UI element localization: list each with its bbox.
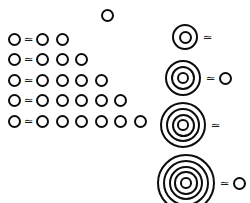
equivalence-row: ≃ bbox=[8, 50, 147, 71]
row-right-circles bbox=[36, 94, 127, 107]
open-circle-icon bbox=[56, 53, 69, 66]
equivalence-row: ≃ bbox=[8, 111, 147, 132]
approx-equal-symbol: ≃ bbox=[24, 54, 34, 65]
equivalence-row: ≃ bbox=[8, 29, 147, 50]
open-circle-icon bbox=[8, 33, 21, 46]
approx-equal-symbol: ≃ bbox=[206, 73, 216, 84]
open-circle-icon bbox=[8, 115, 21, 128]
open-circle-icon bbox=[56, 94, 69, 107]
open-circle-icon bbox=[219, 72, 232, 85]
concentric-equivalence-row: ≃ bbox=[160, 102, 224, 148]
approx-equal-symbol: ≃ bbox=[220, 178, 230, 189]
equivalence-row: ≃ bbox=[8, 91, 147, 112]
open-circle-icon bbox=[36, 33, 49, 46]
isolated-circle-group bbox=[101, 8, 114, 26]
open-circle-icon bbox=[56, 33, 69, 46]
circle-equivalence-figure: ≃≃≃≃≃ ≃≃≃≃ bbox=[0, 0, 250, 203]
open-circle-icon bbox=[95, 74, 108, 87]
open-circle-icon bbox=[134, 115, 147, 128]
approx-equal-symbol: ≃ bbox=[24, 75, 34, 86]
open-circle-icon bbox=[8, 53, 21, 66]
open-circle-icon bbox=[75, 74, 88, 87]
open-circle-icon bbox=[114, 94, 127, 107]
open-circle-icon bbox=[36, 94, 49, 107]
open-circle-icon bbox=[114, 115, 127, 128]
concentric-circles-icon bbox=[160, 102, 206, 148]
ring bbox=[177, 119, 189, 131]
open-circle-icon bbox=[36, 74, 49, 87]
concentric-circles-icon bbox=[157, 154, 215, 203]
equivalence-row: ≃ bbox=[8, 70, 147, 91]
ring bbox=[179, 31, 192, 44]
approx-equal-symbol: ≃ bbox=[24, 95, 34, 106]
ring bbox=[177, 72, 189, 84]
open-circle-icon bbox=[56, 74, 69, 87]
row-right-circles bbox=[36, 33, 69, 46]
open-circle-icon bbox=[8, 74, 21, 87]
open-circle-icon bbox=[75, 115, 88, 128]
approx-equal-symbol: ≃ bbox=[24, 34, 34, 45]
row-right-circles bbox=[36, 115, 147, 128]
concentric-equivalence-row: ≃ bbox=[172, 24, 216, 50]
open-circle-icon bbox=[101, 9, 114, 22]
row-right-circles bbox=[36, 74, 108, 87]
approx-equal-symbol: ≃ bbox=[24, 116, 34, 127]
open-circle-icon bbox=[36, 53, 49, 66]
open-circle-icon bbox=[95, 115, 108, 128]
approx-equal-symbol: ≃ bbox=[211, 120, 221, 131]
open-circle-icon bbox=[95, 94, 108, 107]
open-circle-icon bbox=[75, 53, 88, 66]
concentric-circles-icon bbox=[165, 60, 201, 96]
approx-equal-symbol: ≃ bbox=[203, 32, 213, 43]
open-circle-icon bbox=[36, 115, 49, 128]
concentric-equivalence-row: ≃ bbox=[165, 60, 232, 96]
open-circle-icon bbox=[75, 94, 88, 107]
concentric-equivalence-row: ≃ bbox=[157, 154, 246, 203]
left-rows-block: ≃≃≃≃≃ bbox=[8, 29, 147, 132]
open-circle-icon bbox=[8, 94, 21, 107]
ring bbox=[180, 177, 192, 189]
concentric-circles-icon bbox=[172, 24, 198, 50]
open-circle-icon bbox=[233, 177, 246, 190]
open-circle-icon bbox=[56, 115, 69, 128]
row-right-circles bbox=[36, 53, 88, 66]
